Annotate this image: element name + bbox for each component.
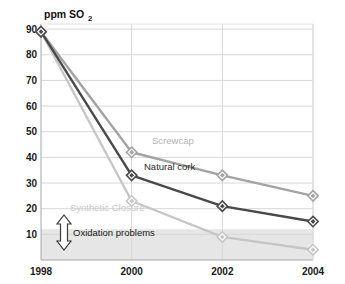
y-tick-label: 60 bbox=[26, 101, 38, 112]
x-tick-label: 2002 bbox=[211, 266, 234, 277]
y-tick-label: 20 bbox=[26, 203, 38, 214]
y-axis-title-subscript: 2 bbox=[88, 14, 92, 23]
x-tick-label: 1998 bbox=[30, 266, 53, 277]
so2-line-chart: ppm SO 2 908070605040302010 199820002002… bbox=[0, 0, 345, 284]
oxidation-problems-label: Oxidation problems bbox=[73, 227, 155, 238]
y-tick-label: 30 bbox=[26, 178, 38, 189]
y-tick-label: 10 bbox=[26, 229, 38, 240]
y-tick-label: 50 bbox=[26, 126, 38, 137]
chart-container: ppm SO 2 908070605040302010 199820002002… bbox=[0, 0, 345, 284]
y-tick-label: 90 bbox=[26, 24, 38, 35]
y-tick-label: 70 bbox=[26, 75, 38, 86]
y-tick-label: 80 bbox=[26, 49, 38, 60]
series-label-synthetic-closure: Synthetic Closure bbox=[70, 202, 144, 213]
series-label-screwcap: Screwcap bbox=[152, 135, 194, 146]
y-axis-title: ppm SO bbox=[44, 8, 84, 20]
series-label-natural-cork: Natural cork bbox=[144, 161, 195, 172]
x-tick-label: 2004 bbox=[302, 266, 325, 277]
y-tick-labels: 908070605040302010 bbox=[26, 24, 38, 240]
x-tick-label: 2000 bbox=[121, 266, 144, 277]
y-tick-label: 40 bbox=[26, 152, 38, 163]
